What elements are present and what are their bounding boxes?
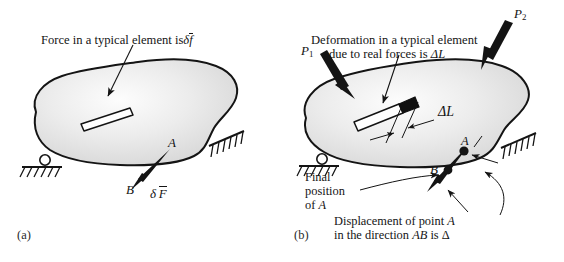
final-position-symbol: A — [318, 198, 326, 212]
final-position-line3: of — [305, 198, 315, 212]
label-final-position: Final position of A — [305, 171, 345, 213]
label-load-p1: P1 — [301, 44, 313, 60]
panel-a: Force in a typical element isδf A B δ F … — [0, 0, 282, 262]
virtual-force-symbol: F — [159, 186, 167, 200]
load-p1-subscript: 1 — [309, 49, 313, 59]
fixed-support — [209, 131, 244, 157]
figure-root: Force in a typical element isδf A B δ F … — [0, 0, 564, 262]
label-delta-l: ΔL — [438, 104, 454, 120]
label-load-p2: P2 — [514, 7, 526, 23]
displacement-line2-suffix: is — [430, 228, 438, 242]
displacement-value: Δ — [442, 228, 450, 242]
label-displacement: Displacement of point A in the direction… — [334, 215, 455, 243]
load-p2-subscript: 2 — [522, 12, 526, 22]
virtual-force-delta: δ — [150, 186, 156, 201]
panel-b: Deformation in a typical element due to … — [282, 0, 564, 262]
panel-b-caption-line2: due to real forces is — [329, 47, 428, 61]
displacement-direction-symbol: AB — [412, 228, 427, 242]
panel-b-caption: Deformation in a typical element due to … — [311, 33, 477, 61]
final-position-dot — [444, 166, 453, 175]
panel-a-caption-text: Force in a typical element is — [41, 33, 183, 47]
load-p1-symbol: P — [301, 43, 309, 58]
deformable-body — [35, 59, 238, 165]
panel-b-caption-line1: Deformation in a typical element — [311, 33, 477, 47]
label-point-a: A — [461, 134, 469, 148]
final-position-line2: position — [305, 185, 345, 199]
final-position-line1: Final — [305, 171, 345, 185]
panel-a-label: (a) — [17, 228, 31, 243]
label-point-a: A — [168, 136, 176, 151]
panel-a-caption-symbol: f — [189, 33, 193, 47]
displacement-line1: Displacement of point — [334, 214, 444, 228]
load-p2-symbol: P — [514, 6, 522, 21]
displacement-line2: in the direction — [334, 228, 409, 242]
panel-b-caption-symbol: ΔL — [431, 47, 445, 61]
fixed-support — [501, 133, 536, 159]
panel-b-label: (b) — [294, 228, 309, 243]
label-virtual-force: δ F — [150, 186, 167, 202]
roller-support — [20, 155, 62, 177]
label-point-b: B — [430, 163, 438, 178]
displacement-point-symbol: A — [447, 214, 455, 228]
label-point-b: B — [126, 183, 134, 198]
panel-a-caption: Force in a typical element isδf — [41, 33, 193, 47]
